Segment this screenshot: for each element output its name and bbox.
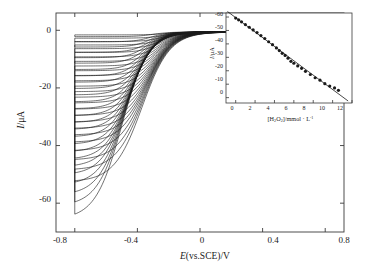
inset-xtick-label-0: 0 xyxy=(222,105,242,111)
inset-xtick-label-4: 8 xyxy=(294,105,314,111)
inset-xtick-label-2: 4 xyxy=(258,105,278,111)
inset-x-axis-label-sup: -1 xyxy=(310,115,314,120)
figure-root: -0.8 -0.4 0 0.4 0.8 0 -20 -40 -60 E(vs.S… xyxy=(0,0,367,275)
main-xtick-label-0: -0.8 xyxy=(40,236,80,245)
inset-xtick-label-5: 10 xyxy=(312,105,332,111)
main-xtick-label-4: 0.8 xyxy=(324,236,364,245)
inset-y-axis-label-rest: /μA xyxy=(208,47,215,57)
inset-x-axis-label: [H2O2]/mmol · L-1 xyxy=(243,116,338,123)
inset-ytick-label-0: -60 xyxy=(205,11,223,17)
inset-y-axis-label-italic: I xyxy=(208,57,215,59)
main-y-axis-label: I/μA xyxy=(17,90,27,150)
inset-ytick-label-6: 0 xyxy=(205,89,223,95)
inset-ytick-label-1: -50 xyxy=(205,24,223,30)
inset-xtick-label-3: 6 xyxy=(276,105,296,111)
main-xtick-label-2: 0 xyxy=(182,236,222,245)
inset-x-axis-label-post: ]/mmol · L xyxy=(283,115,310,122)
main-y-axis-label-italic: I xyxy=(16,125,26,128)
main-ytick-label-0: 0 xyxy=(18,26,51,35)
main-xtick-label-3: 0.4 xyxy=(253,236,293,245)
main-ytick-label-3: -60 xyxy=(18,195,51,204)
main-plot-canvas xyxy=(0,0,367,275)
inset-y-axis-label: I/μA xyxy=(209,33,215,73)
main-y-axis-label-rest: /μA xyxy=(16,111,26,126)
main-x-axis-label-rest: (vs.SCE)/V xyxy=(186,251,230,261)
inset-xtick-label-6: 12 xyxy=(330,105,350,111)
inset-ytick-label-5: -10 xyxy=(205,76,223,82)
main-xtick-label-1: -0.4 xyxy=(111,236,151,245)
inset-xtick-label-1: 2 xyxy=(240,105,260,111)
main-x-axis-label: E(vs.SCE)/V xyxy=(140,252,270,262)
